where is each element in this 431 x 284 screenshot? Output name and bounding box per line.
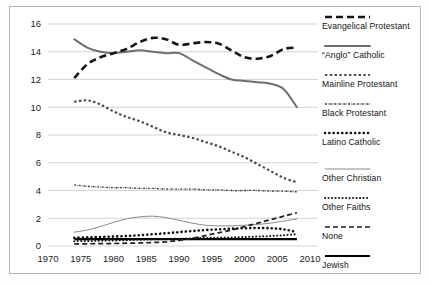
y-axis-tick-label: 4: [36, 185, 41, 196]
legend-swatch-icon: [324, 130, 372, 136]
legend-label: Other Christian: [322, 173, 426, 183]
x-axis-tick-label: 1990: [168, 253, 189, 264]
legend-swatch-icon: [324, 224, 372, 230]
y-axis-tick-label: 0: [36, 240, 41, 251]
x-axis-tick-label: 2000: [234, 253, 255, 264]
y-axis-tick-label: 6: [36, 157, 41, 168]
legend-item[interactable]: Black Protestant: [322, 101, 426, 118]
legend-item[interactable]: Latino Catholic: [322, 130, 426, 147]
y-axis-tick-label: 8: [36, 129, 41, 140]
legend-label: Jewish: [322, 260, 426, 270]
legend-item[interactable]: Jewish: [322, 253, 426, 270]
x-axis-tick-label: 2005: [267, 253, 288, 264]
legend-label: Latino Catholic: [322, 137, 426, 147]
legend-item[interactable]: None: [322, 224, 426, 241]
legend-swatch-icon: [324, 166, 372, 172]
legend-swatch-icon: [324, 101, 372, 107]
legend-item[interactable]: Other Christian: [322, 166, 426, 183]
legend-label: Other Faiths: [322, 202, 426, 212]
legend-swatch-icon: [324, 72, 372, 78]
y-axis-tick-label: 12: [30, 74, 41, 85]
legend-label: None: [322, 231, 426, 241]
x-axis-tick-label: 2010: [299, 253, 320, 264]
legend-item[interactable]: Evangelical Protestant: [322, 14, 426, 31]
legend-item[interactable]: Other Faiths: [322, 195, 426, 212]
legend-swatch-icon: [324, 195, 372, 201]
x-axis-tick-label: 1985: [136, 253, 157, 264]
legend-swatch-icon: [324, 253, 372, 259]
x-axis-tick-label: 1980: [103, 253, 124, 264]
x-axis-tick-label: 1970: [37, 253, 58, 264]
chart-figure: 0246810121416197019751980198519901995200…: [0, 0, 431, 284]
legend-item[interactable]: “Anglo” Catholic: [322, 43, 426, 60]
y-axis-tick-label: 2: [36, 213, 41, 224]
series-line: [74, 100, 297, 182]
series-line: [74, 39, 297, 107]
chart-legend: Evangelical Protestant“Anglo” CatholicMa…: [322, 14, 426, 270]
legend-label: Mainline Protestant: [322, 79, 426, 89]
y-axis-tick-label: 16: [30, 18, 41, 29]
legend-label: Black Protestant: [322, 108, 426, 118]
legend-swatch-icon: [324, 14, 372, 20]
legend-item[interactable]: Mainline Protestant: [322, 72, 426, 89]
legend-label: Evangelical Protestant: [322, 21, 426, 31]
legend-swatch-icon: [324, 43, 372, 49]
y-axis-tick-label: 10: [30, 102, 41, 113]
legend-label: “Anglo” Catholic: [322, 50, 426, 60]
y-axis-tick-label: 14: [30, 46, 41, 57]
series-line: [74, 38, 297, 78]
x-axis-tick-label: 1975: [70, 253, 91, 264]
x-axis-tick-label: 1995: [201, 253, 222, 264]
